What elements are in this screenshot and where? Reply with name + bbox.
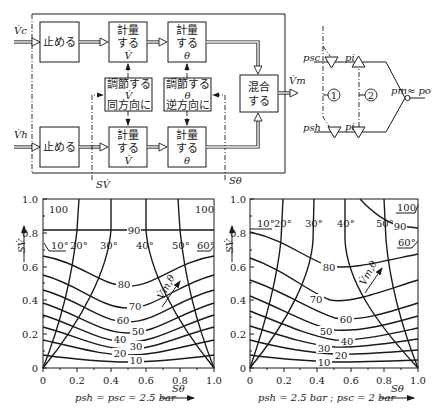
chart-left: 0 0.2 0.4 0.6 0.8 1.0 0 0.2 0.4 0.6 0.8 …	[16, 194, 222, 403]
temp-label-40: 40°	[136, 240, 154, 251]
meter-temp-bottom-line2: する	[176, 142, 198, 155]
temp-label-30: 30°	[305, 218, 323, 229]
temp-line-50	[178, 199, 214, 368]
valve-link-1-top	[323, 46, 330, 56]
contour-label-10: 10	[318, 357, 331, 368]
meter-temp-bottom-line1: 計量	[176, 128, 198, 142]
flow-label-right: V̇m,θ	[357, 259, 379, 287]
temp-label-10: 10°	[51, 240, 69, 251]
contour-label-80: 80	[323, 262, 336, 273]
label-100-right: 100	[195, 204, 214, 215]
ytick: 0	[32, 363, 38, 374]
pipe-bottom-meter-to-meter	[147, 143, 167, 151]
label-pi-top: pi	[345, 52, 355, 63]
pipe-bottom-stop-to-meter	[79, 143, 108, 151]
signal-sv-label: SV̇	[96, 179, 112, 190]
contour-label-40: 40	[341, 336, 354, 347]
temp-line-20	[43, 199, 79, 368]
pipe-top-stop-to-meter	[79, 38, 108, 46]
xtick: 0.8	[376, 375, 392, 386]
adjust-volume-line3: 同方向に	[107, 98, 151, 112]
xtick: 1.0	[206, 375, 222, 386]
xtick: 0.4	[309, 375, 325, 386]
circle-2-label: 2	[368, 90, 374, 101]
valve-schematic: 1 2 psc pi psh pi pm≈ po	[303, 26, 431, 138]
flow-contour-labels-left: 80 70 60 50 40 30 20 10	[112, 279, 146, 366]
ytick: 0.6	[230, 262, 246, 273]
pipe-bottom-to-mixer	[206, 113, 262, 147]
label-psc: psc	[303, 52, 321, 63]
chart-right-ylabel: SV̇	[224, 237, 235, 253]
chart-left-xticks: 0 0.2 0.4 0.6 0.8 1.0	[40, 368, 222, 386]
meter-volume-top-line1: 計量	[117, 23, 139, 37]
adjust-temp-line3: 逆方向に	[166, 98, 210, 112]
contour-label-60: 60	[340, 314, 353, 325]
stop-block-top-label: 止める	[43, 36, 76, 49]
ytick: 0.4	[22, 295, 38, 306]
label-100-right-chart: 100	[397, 202, 416, 213]
ytick: 0.6	[22, 262, 38, 273]
contour-label-50: 50	[132, 326, 145, 337]
label-pm-po: pm≈ po	[391, 85, 431, 96]
signal-sv-line	[92, 95, 103, 180]
contour-label-40: 40	[114, 334, 127, 345]
contour-label-10: 10	[130, 355, 143, 366]
cold-flow-label: V̇c	[14, 25, 27, 36]
circle-1-label: 1	[331, 90, 337, 101]
ytick: 1.0	[230, 194, 246, 205]
meter-temp-top-line2: する	[176, 37, 198, 50]
output-flow-label: V̇m	[289, 75, 306, 86]
signal-stheta-line	[213, 95, 225, 180]
meter-volume-bottom-line1: 計量	[117, 128, 139, 142]
contour-label-90: 90	[128, 225, 141, 236]
meter-volume-bottom-line2: する	[117, 142, 139, 155]
mix-point-icon	[405, 95, 410, 100]
label-psh: psh	[303, 122, 321, 133]
xtick: 0	[247, 375, 253, 386]
adjust-volume-line1: 調節する	[107, 77, 151, 91]
pipe-top-to-mixer	[206, 42, 262, 74]
xtick: 0.2	[276, 375, 292, 386]
temp-label-20: 20°	[70, 240, 88, 251]
ytick: 0.4	[230, 295, 246, 306]
chart-right: 0 0.2 0.4 0.6 0.8 1.0 0 0.2 0.4 0.6 0.8 …	[224, 194, 426, 403]
temp-label-30: 30°	[100, 240, 118, 251]
xtick: 1.0	[410, 375, 426, 386]
xtick: 0.4	[103, 375, 119, 386]
label-100-left: 100	[49, 204, 68, 215]
adjust-temp-line1: 調節する	[166, 77, 210, 91]
temp-label-20: 20°	[274, 218, 292, 229]
temp-label-10: 10°	[257, 218, 275, 229]
contour-label-20: 20	[114, 348, 127, 359]
contour-label-30: 30	[130, 341, 143, 352]
ytick: 0.2	[230, 329, 246, 340]
meter-volume-top-line2: する	[117, 37, 139, 50]
temp-label-50: 50°	[172, 240, 190, 251]
contour-label-60: 60	[117, 315, 130, 326]
ytick: 1.0	[22, 194, 38, 205]
temp-label-50: 50°	[376, 218, 394, 229]
cold-input-pipe	[14, 38, 40, 46]
hot-flow-label: V̇h	[14, 129, 28, 140]
chart-right-caption: psh = 2.5 bar ; psc = 2 bar	[258, 392, 396, 403]
meter-temp-bottom-line3: θ	[184, 155, 190, 166]
mix-block-line2: する	[248, 95, 270, 108]
chart-right-xlabel: Sθ	[391, 383, 404, 394]
pipe-top-meter-to-meter	[147, 38, 167, 46]
contour-label-20: 20	[335, 350, 348, 361]
xtick: 0.6	[138, 375, 154, 386]
figure-canvas: V̇c V̇h 止める 止める 計量 する V̇	[0, 0, 435, 408]
stop-block-bottom-label: 止める	[43, 141, 76, 154]
chart-left-ylabel: SV̇	[16, 237, 27, 253]
contour-label-70: 70	[310, 294, 323, 305]
xtick: 0.6	[343, 375, 359, 386]
xtick: 0.2	[69, 375, 85, 386]
valve-link-1	[323, 26, 330, 128]
output-pipe	[278, 89, 298, 97]
temp-label-60: 60°	[197, 240, 215, 251]
ytick: 0.2	[22, 329, 38, 340]
ytick: 0	[240, 363, 246, 374]
signal-stheta-label: Sθ	[229, 175, 242, 186]
contour-label-80: 80	[118, 279, 131, 290]
block-diagram: V̇c V̇h 止める 止める 計量 する V̇	[14, 14, 306, 190]
